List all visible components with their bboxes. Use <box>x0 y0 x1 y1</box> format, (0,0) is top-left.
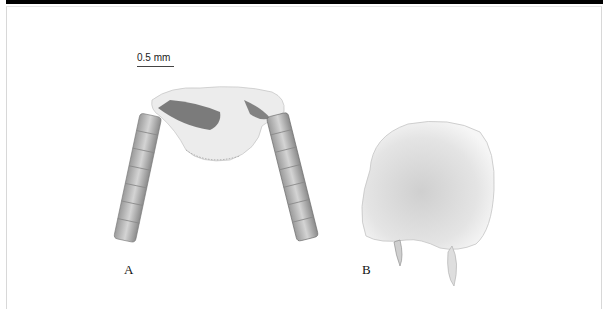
panel-b-specimen <box>362 121 494 286</box>
specimen-illustrations <box>0 0 609 309</box>
panel-label-a: A <box>124 262 133 278</box>
panel-a-specimen <box>114 87 319 243</box>
panel-label-b: B <box>362 262 371 278</box>
